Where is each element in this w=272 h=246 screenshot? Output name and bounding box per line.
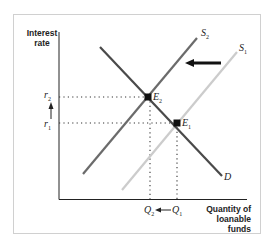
label-s2: S2 [201,28,209,40]
label-s1: S1 [239,43,247,55]
x-axis-title-line2: loanable funds [196,215,251,235]
supply-shift-arrowhead-icon [185,59,194,67]
y-axis-title: Interest rate [25,29,59,49]
x-axis-title: Quantity of loanable funds [196,205,251,234]
supply-curve-s2 [83,38,197,174]
rate-rise-arrowhead-icon [49,102,54,109]
equilibrium-point-e1 [174,120,181,127]
tick-r2: r2 [44,90,51,102]
quantity-fall-arrowhead-icon [155,208,161,213]
tick-r1: r1 [44,119,51,131]
tick-q1: Q1 [172,205,182,217]
equilibrium-point-e2 [145,94,152,101]
label-e2: E2 [153,92,162,104]
demand-curve-d [100,47,222,176]
label-e1: E1 [182,118,191,130]
label-d: D [224,172,231,182]
y-axis-title-line2: rate [25,39,59,49]
tick-q2: Q2 [144,205,154,217]
